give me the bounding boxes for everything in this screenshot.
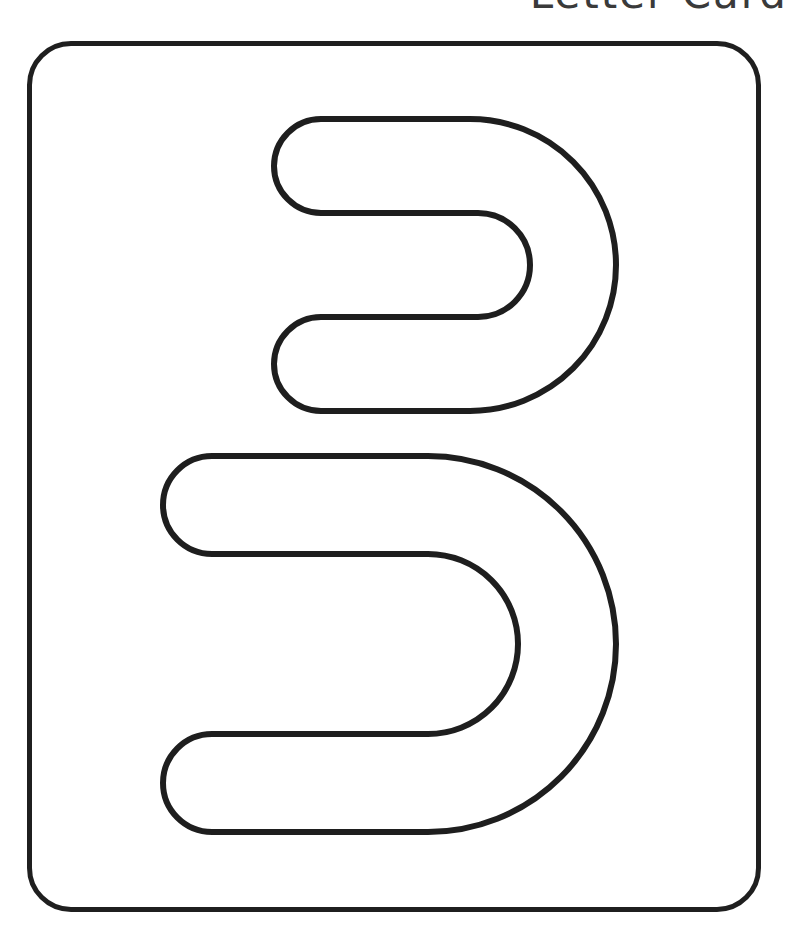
letter-three-outline-icon xyxy=(0,0,794,932)
letter-three-top-bowl xyxy=(274,119,616,411)
letter-three-bottom-bowl xyxy=(163,456,616,832)
